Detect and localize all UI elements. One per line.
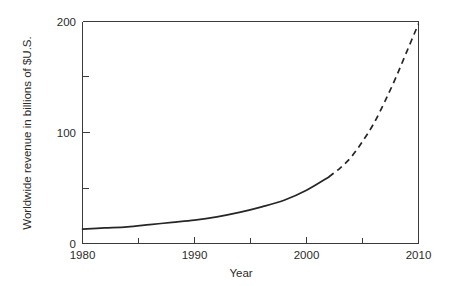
y-axis-ticks	[83, 22, 90, 244]
y-tick-label-100: 100	[57, 127, 76, 139]
chart-figure: 200 100 0 1980 1990 2000 2010 Year World…	[0, 0, 450, 286]
x-tick-label-2010: 2010	[406, 249, 432, 261]
x-axis-title: Year	[229, 267, 252, 279]
x-tick-label-1980: 1980	[70, 249, 96, 261]
revenue-line-chart: 200 100 0 1980 1990 2000 2010 Year World…	[0, 0, 450, 286]
series-line-actual	[83, 177, 329, 229]
x-tick-label-2000: 2000	[294, 249, 320, 261]
x-tick-label-1990: 1990	[182, 249, 208, 261]
y-tick-label-200: 200	[57, 16, 76, 28]
series-line-projected	[329, 24, 419, 177]
y-axis-title: Worldwide revenue in billions of $U.S.	[21, 36, 33, 229]
x-axis-ticks	[83, 237, 419, 244]
